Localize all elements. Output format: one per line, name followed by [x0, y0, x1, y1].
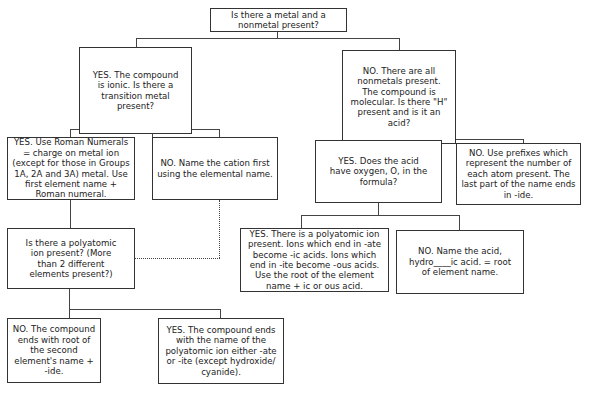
- node-polyatomic-question: Is there a polyatomic ion present? (More…: [7, 228, 135, 289]
- connector: [301, 215, 460, 216]
- node-roman-numerals: YES. Use Roman Numerals = charge on meta…: [7, 137, 135, 200]
- node-cation: NO. Name the cation first using the elem…: [152, 137, 278, 200]
- connector: [220, 309, 221, 318]
- node-acid-oxygen: YES. Does the acid have oxygen, O, in th…: [315, 140, 442, 203]
- connector: [69, 288, 70, 310]
- dotted-connector: [134, 258, 220, 259]
- node-oxyacid: YES. There is a polyatomic ion present. …: [240, 228, 389, 292]
- dotted-connector: [219, 200, 220, 258]
- node-binary-end: NO. The compound ends with root of the s…: [7, 318, 101, 383]
- node-hydro-acid: NO. Name the acid, hydro____ic acid. = r…: [396, 230, 524, 294]
- connector: [69, 309, 70, 318]
- node-ionic: YES. The compound is ionic. Is there a t…: [79, 47, 192, 134]
- node-molecular: NO. There are all nonmetals present. The…: [342, 50, 456, 144]
- connector: [70, 199, 71, 228]
- node-polyatomic-end: YES. The compound ends with the name of …: [158, 318, 284, 384]
- connector: [136, 38, 399, 39]
- node-root-question: Is there a metal and a nonmetal present?: [210, 8, 347, 32]
- node-prefixes: NO. Use prefixes which represent the num…: [456, 143, 581, 205]
- connector: [69, 309, 221, 310]
- connector: [301, 215, 302, 228]
- connector: [459, 215, 460, 230]
